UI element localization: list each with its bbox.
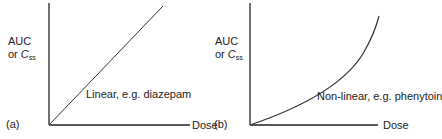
y-label-line1: AUC [215, 35, 243, 48]
y-label-line1: AUC [8, 35, 36, 48]
y-label-prefix: or [8, 48, 21, 60]
y-label-sub: ss [29, 54, 36, 61]
y-label-var: C [228, 48, 236, 60]
panel-label-a: (a) [6, 118, 19, 131]
y-label-line2: or Css [8, 48, 36, 64]
panel-label-b: (b) [214, 118, 227, 131]
linear-line [49, 6, 163, 125]
y-label-prefix: or [215, 48, 228, 60]
curve-label-a: Linear, e.g. diazepam [86, 88, 191, 101]
y-label-sub: ss [236, 54, 243, 61]
panel-a-axes [49, 3, 190, 125]
y-axis-label-b: AUC or Css [215, 35, 243, 64]
nonlinear-curve [250, 16, 379, 125]
panel-b-axes [250, 3, 379, 125]
y-axis-label-a: AUC or Css [8, 35, 36, 64]
x-axis-label-b: Dose [383, 119, 409, 132]
y-label-var: C [21, 48, 29, 60]
curve-label-b: Non-linear, e.g. phenytoin [317, 90, 442, 103]
y-label-line2: or Css [215, 48, 243, 64]
